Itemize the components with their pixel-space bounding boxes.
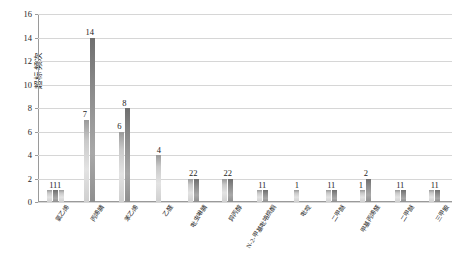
bar[interactable] bbox=[194, 179, 199, 203]
bar-value-label: 22 bbox=[189, 169, 198, 178]
bar-chart: 超标频次 0246810121416 111147864222211111211… bbox=[0, 0, 460, 256]
y-axis-tick-label: 10 bbox=[24, 80, 33, 90]
bar[interactable] bbox=[125, 108, 130, 202]
bar-value-label: 1 bbox=[295, 181, 299, 190]
x-axis-tick-label: 苯乙烯 bbox=[122, 203, 139, 224]
y-axis-tick-label: 2 bbox=[28, 174, 32, 184]
bar-group[interactable]: 4 bbox=[142, 14, 177, 202]
bar[interactable] bbox=[59, 190, 64, 202]
bar-group[interactable]: 86 bbox=[107, 14, 142, 202]
x-axis-tick-label: 二甲醚 bbox=[398, 203, 415, 224]
bar[interactable] bbox=[119, 132, 124, 203]
bar[interactable] bbox=[294, 190, 299, 202]
bar-group[interactable]: 11 bbox=[314, 14, 349, 202]
bar-value-label: 11 bbox=[258, 181, 266, 190]
bar-value-label-secondary: 1 bbox=[359, 181, 363, 190]
x-axis-tick-label: 异丙醇 bbox=[226, 203, 243, 224]
bar[interactable] bbox=[84, 120, 89, 202]
bar-group[interactable]: 111 bbox=[38, 14, 73, 202]
x-axis-tick-label: 氯乙烯 bbox=[53, 203, 70, 224]
x-axis-tick-label: 甲基丙烯醛 bbox=[357, 203, 381, 234]
bar-group[interactable]: 147 bbox=[73, 14, 108, 202]
bar[interactable] bbox=[222, 179, 227, 203]
y-axis-tick-label: 8 bbox=[28, 103, 32, 113]
bar-group[interactable]: 21 bbox=[349, 14, 384, 202]
bar[interactable] bbox=[366, 179, 371, 203]
bar[interactable] bbox=[401, 190, 406, 202]
bar-value-label: 4 bbox=[157, 146, 161, 155]
y-axis-tick-label: 4 bbox=[28, 150, 32, 160]
bar-group[interactable]: 22 bbox=[176, 14, 211, 202]
bar-value-label: 11 bbox=[431, 181, 439, 190]
bar-value-label: 22 bbox=[224, 169, 233, 178]
x-axis-tick-label: 乙醛 bbox=[160, 203, 174, 218]
x-axis-tick-label: 吡虫啉腈 bbox=[188, 203, 209, 229]
bar[interactable] bbox=[47, 190, 52, 202]
bar[interactable] bbox=[188, 179, 193, 203]
bar-value-label: 111 bbox=[49, 181, 61, 190]
bar[interactable] bbox=[257, 190, 262, 202]
bar-value-label-secondary: 7 bbox=[83, 110, 87, 119]
bar[interactable] bbox=[263, 190, 268, 202]
bar[interactable] bbox=[90, 38, 95, 203]
y-axis-tick-label: 0 bbox=[28, 197, 32, 207]
bar-group[interactable]: 11 bbox=[383, 14, 418, 202]
bar[interactable] bbox=[429, 190, 434, 202]
x-axis-tick-label: 二甲醚 bbox=[329, 203, 346, 224]
bar-group[interactable]: 1 bbox=[280, 14, 315, 202]
y-axis-tick-labels: 0246810121416 bbox=[0, 0, 34, 208]
y-axis-tick-label: 6 bbox=[28, 127, 32, 137]
x-axis-tick-label: N-2-甲基吡咯烷酮 bbox=[244, 203, 278, 250]
bar[interactable] bbox=[326, 190, 331, 202]
x-axis-tick-label: 三甲胺 bbox=[433, 203, 450, 224]
bar-value-label: 14 bbox=[86, 28, 95, 37]
bar[interactable] bbox=[360, 190, 365, 202]
bar[interactable] bbox=[435, 190, 440, 202]
x-axis-tick-labels: 氯乙烯丙烯腈苯乙烯乙醛吡虫啉腈异丙醇N-2-甲基吡咯烷酮吡啶二甲醚甲基丙烯醛二甲… bbox=[38, 203, 452, 256]
bar-group[interactable]: 11 bbox=[245, 14, 280, 202]
bar[interactable] bbox=[395, 190, 400, 202]
bar-value-label-secondary: 6 bbox=[117, 122, 121, 131]
y-axis-tick-label: 12 bbox=[24, 56, 33, 66]
bar-group[interactable]: 22 bbox=[211, 14, 246, 202]
x-axis-tick-label: 丙烯腈 bbox=[88, 203, 105, 224]
y-axis-tick-label: 16 bbox=[24, 9, 33, 19]
bar-value-label: 11 bbox=[327, 181, 335, 190]
bar[interactable] bbox=[53, 190, 58, 202]
plot-area: 111147864222211111211111 bbox=[38, 14, 452, 202]
bar[interactable] bbox=[332, 190, 337, 202]
y-axis-tick-label: 14 bbox=[24, 33, 33, 43]
bar-group[interactable]: 11 bbox=[418, 14, 453, 202]
bar-value-label: 11 bbox=[396, 181, 404, 190]
bar-value-label: 8 bbox=[122, 99, 126, 108]
x-axis-tick-label: 吡啶 bbox=[298, 203, 312, 218]
bar[interactable] bbox=[228, 179, 233, 203]
bar[interactable] bbox=[156, 155, 161, 202]
bar-value-label: 2 bbox=[364, 169, 368, 178]
